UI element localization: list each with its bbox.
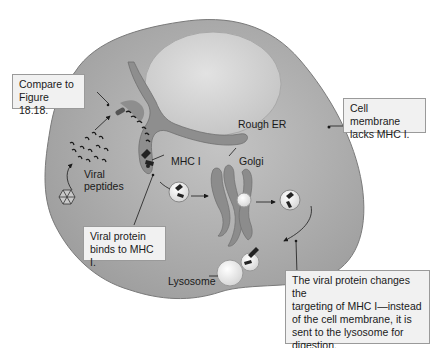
label-viral-peptides: Viral peptides <box>84 168 124 192</box>
callout-targeting: The viral protein changes the targeting … <box>285 270 430 344</box>
callout-viral-protein: Viral protein binds to MHC I. <box>83 226 166 261</box>
callout-compare: Compare to Figure 18.18. <box>12 74 85 109</box>
label-golgi: Golgi <box>239 155 264 167</box>
lysosome <box>217 260 243 286</box>
callout-cell-membrane: Cell membrane lacks MHC I. <box>343 98 426 133</box>
virus-icon <box>59 190 75 204</box>
label-rough-er: Rough ER <box>238 118 286 130</box>
label-mhc1: MHC I <box>171 155 201 167</box>
label-lysosome: Lysosome <box>168 275 215 287</box>
